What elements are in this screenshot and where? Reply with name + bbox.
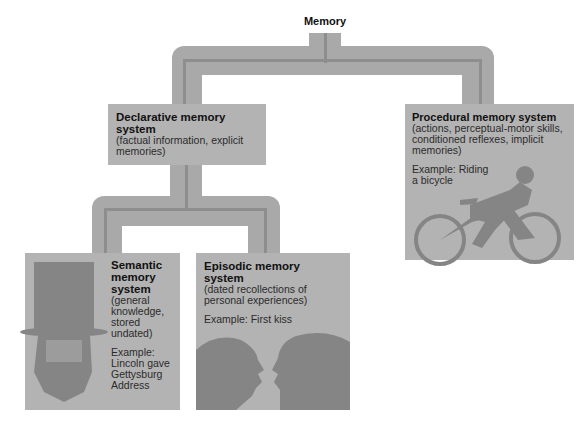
kissing-couple-icon <box>196 330 350 410</box>
declarative-description: (factual information, explicit memories) <box>116 135 258 157</box>
procedural-description: (actions, perceptual-motor skills, condi… <box>412 123 567 156</box>
episodic-example: Example: First kiss <box>204 314 342 325</box>
cyclist-icon <box>400 160 580 270</box>
declarative-title: Declarative memory system <box>116 111 258 135</box>
semantic-description: (general knowledge, stored undated) <box>111 295 174 339</box>
semantic-title: Semantic memory system <box>111 259 174 295</box>
episodic-title: Episodic memory system <box>204 260 342 284</box>
root-label-memory: Memory <box>300 15 350 27</box>
lincoln-portrait-icon <box>20 262 110 412</box>
declarative-memory-box: Declarative memory system (factual infor… <box>108 104 266 165</box>
semantic-example: Example: Lincoln gave Gettysburg Address <box>111 347 174 391</box>
episodic-description: (dated recollections of personal experie… <box>204 284 342 306</box>
